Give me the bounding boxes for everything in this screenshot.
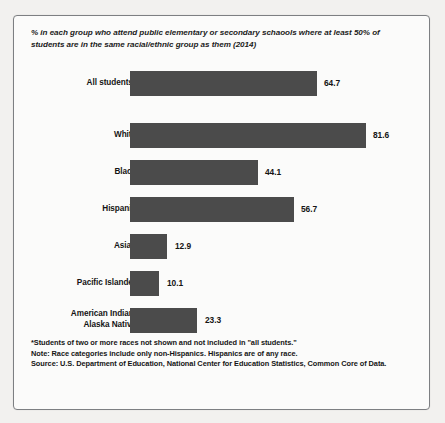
category-label: Asian [26,241,136,252]
bar-track: 44.1 [130,160,429,185]
category-label: Pacific Islander [26,278,136,289]
category-label: American Indian/ Alaska Native [26,309,136,330]
bar [130,308,197,333]
bar-value-label: 44.1 [265,167,281,177]
footnote-asterisk: *Students of two or more races not shown… [31,338,421,349]
bar [130,234,167,259]
chart-card: % in each group who attend public elemen… [13,15,430,410]
bar-row: Pacific Islander 10.1 [14,271,429,296]
bar-track: 64.7 [130,71,429,96]
chart-card-inner: % in each group who attend public elemen… [14,16,429,409]
bar-value-label: 81.6 [373,130,389,140]
bar-track: 23.3 [130,308,429,333]
bar-track: 12.9 [130,234,429,259]
bar-track: 81.6 [130,123,429,148]
bar-value-label: 12.9 [175,241,191,251]
bar-value-label: 64.7 [324,78,340,88]
category-label-line2: Alaska Native [83,320,136,329]
bar-track: 10.1 [130,271,429,296]
bar [130,123,366,148]
category-label: Hispanic [26,204,136,215]
footnote-source: Source: U.S. Department of Education, Na… [31,359,421,370]
bar-value-label: 23.3 [205,315,221,325]
bar-row: Black 44.1 [14,160,429,185]
bar-row: American Indian/ Alaska Native 23.3 [14,308,429,333]
category-label: Black [26,167,136,178]
footnote-note: Note: Race categories include only non-H… [31,349,421,360]
bar-value-label: 10.1 [167,278,183,288]
bar [130,197,294,222]
chart-title: % in each group who attend public elemen… [31,27,386,50]
bar-chart-plot: All students* 64.7 White 81.6 [14,71,429,326]
bar [130,71,317,96]
bar [130,160,258,185]
chart-screenshot: % in each group who attend public elemen… [0,0,445,423]
bar-row: White 81.6 [14,123,429,148]
bar-value-label: 56.7 [301,204,317,214]
bar-row: Hispanic 56.7 [14,197,429,222]
category-label-line1: American Indian/ [71,309,136,318]
bar-track: 56.7 [130,197,429,222]
chart-notes: *Students of two or more races not shown… [31,338,421,370]
bar [130,271,159,296]
bar-row: Asian 12.9 [14,234,429,259]
bar-row: All students* 64.7 [14,71,429,96]
category-label: White [26,130,136,141]
category-label: All students* [26,78,136,89]
